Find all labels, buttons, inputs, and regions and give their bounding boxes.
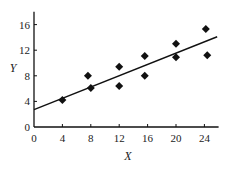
ticks: 048121620240481216 <box>19 19 210 144</box>
y-tick-label: 8 <box>25 70 31 82</box>
x-tick-label: 12 <box>114 132 125 144</box>
x-tick-label: 20 <box>171 132 183 144</box>
diamond-marker <box>84 72 92 80</box>
diamond-marker <box>202 25 210 33</box>
x-tick-label: 16 <box>142 132 154 144</box>
diamond-marker <box>115 63 123 71</box>
y-tick-label: 0 <box>25 121 31 133</box>
y-tick-label: 4 <box>25 95 31 107</box>
diamond-marker <box>172 40 180 48</box>
diamond-marker <box>203 51 211 59</box>
x-axis-label: X <box>123 149 132 163</box>
x-tick-label: 8 <box>88 132 94 144</box>
diamond-marker <box>115 82 123 90</box>
scatter-chart: 048121620240481216 X Y <box>0 0 229 169</box>
diamond-marker <box>87 84 95 92</box>
x-tick-label: 4 <box>60 132 66 144</box>
x-tick-label: 0 <box>31 132 37 144</box>
y-axis-label: Y <box>10 61 18 75</box>
x-tick-label: 24 <box>199 132 211 144</box>
data-points <box>58 25 211 104</box>
diamond-marker <box>141 52 149 60</box>
y-tick-label: 12 <box>19 44 30 56</box>
axes <box>34 12 219 127</box>
y-tick-label: 16 <box>19 19 31 31</box>
diamond-marker <box>141 72 149 80</box>
